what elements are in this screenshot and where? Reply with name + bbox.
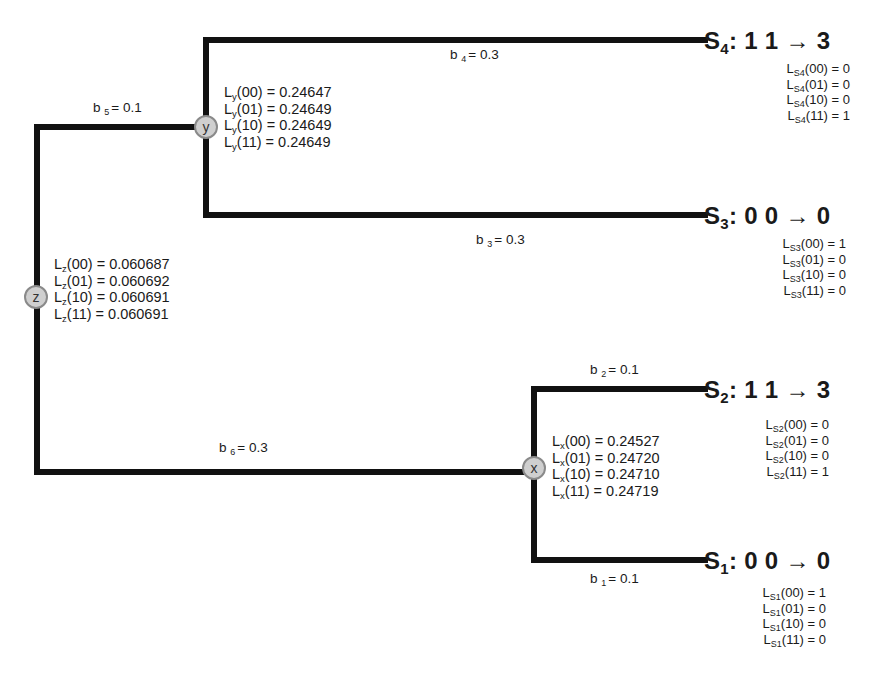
likelihood-row: LS1(01) = 0 bbox=[763, 601, 826, 617]
likelihood-row: LS1(10) = 0 bbox=[763, 616, 826, 632]
likelihood-row: Lz(10) = 0.060691 bbox=[54, 289, 170, 306]
likelihood-row: Lx(01) = 0.24720 bbox=[552, 450, 660, 467]
leaf-s3-likelihoods: LS3(00) = 1 LS3(01) = 0 LS3(10) = 0 LS3(… bbox=[783, 236, 846, 298]
likelihood-row: LS4(10) = 0 bbox=[787, 92, 850, 108]
leaf-s1-likelihoods: LS1(00) = 1 LS1(01) = 0 LS1(10) = 0 LS1(… bbox=[763, 585, 826, 647]
branch-label-b1: b 1= 0.1 bbox=[590, 571, 639, 586]
likelihood-row: LS4(11) = 1 bbox=[787, 108, 850, 124]
likelihood-row: LS1(00) = 1 bbox=[763, 585, 826, 601]
branch-label-b2: b 2= 0.1 bbox=[590, 362, 639, 377]
likelihood-row: Ly(11) = 0.24649 bbox=[224, 134, 332, 151]
leaf-s2-likelihoods: LS2(00) = 0 LS2(01) = 0 LS2(10) = 0 LS2(… bbox=[766, 417, 829, 479]
branch-label-b3: b 3= 0.3 bbox=[476, 232, 525, 247]
leaf-s4-title: S4: 1 1 → 3 bbox=[704, 27, 830, 55]
leaf-s4-likelihoods: LS4(00) = 0 LS4(01) = 0 LS4(10) = 0 LS4(… bbox=[787, 61, 850, 123]
likelihood-row: Ly(00) = 0.24647 bbox=[224, 84, 332, 101]
node-z: z bbox=[24, 285, 48, 309]
likelihood-row: LS4(00) = 0 bbox=[787, 61, 850, 77]
edge-b6 bbox=[37, 297, 534, 472]
node-y-likelihoods: Ly(00) = 0.24647 Ly(01) = 0.24649 Ly(10)… bbox=[224, 84, 332, 150]
node-x-likelihoods: Lx(00) = 0.24527 Lx(01) = 0.24720 Lx(10)… bbox=[552, 433, 660, 499]
branch-label-b5: b 5= 0.1 bbox=[93, 100, 142, 115]
likelihood-row: LS3(10) = 0 bbox=[783, 267, 846, 283]
node-x-label: x bbox=[531, 461, 538, 475]
likelihood-row: LS2(00) = 0 bbox=[766, 417, 829, 433]
likelihood-row: Ly(10) = 0.24649 bbox=[224, 117, 332, 134]
likelihood-row: Lx(11) = 0.24719 bbox=[552, 483, 660, 500]
node-y-label: y bbox=[203, 120, 210, 134]
likelihood-row: Lz(00) = 0.060687 bbox=[54, 256, 170, 273]
node-x: x bbox=[522, 456, 546, 480]
leaf-s1-title: S1: 0 0 → 0 bbox=[704, 547, 830, 575]
likelihood-row: Lx(00) = 0.24527 bbox=[552, 433, 660, 450]
likelihood-row: LS2(01) = 0 bbox=[766, 433, 829, 449]
branch-label-b4: b 4= 0.3 bbox=[450, 47, 499, 62]
likelihood-row: LS2(11) = 1 bbox=[766, 464, 829, 480]
likelihood-row: Ly(01) = 0.24649 bbox=[224, 101, 332, 118]
likelihood-row: LS3(01) = 0 bbox=[783, 252, 846, 268]
likelihood-row: Lz(01) = 0.060692 bbox=[54, 273, 170, 290]
branch-label-b6: b 6= 0.3 bbox=[219, 440, 268, 455]
likelihood-row: LS4(01) = 0 bbox=[787, 77, 850, 93]
likelihood-row: Lz(11) = 0.060691 bbox=[54, 306, 170, 323]
likelihood-row: Lx(10) = 0.24710 bbox=[552, 466, 660, 483]
likelihood-row: LS3(11) = 0 bbox=[783, 283, 846, 299]
node-z-label: z bbox=[33, 290, 40, 304]
likelihood-row: LS2(10) = 0 bbox=[766, 448, 829, 464]
node-z-likelihoods: Lz(00) = 0.060687 Lz(01) = 0.060692 Lz(1… bbox=[54, 256, 170, 322]
leaf-s3-title: S3: 0 0 → 0 bbox=[704, 202, 830, 230]
leaf-s2-title: S2: 1 1 → 3 bbox=[704, 376, 830, 404]
likelihood-row: LS1(11) = 0 bbox=[763, 632, 826, 648]
likelihood-row: LS3(00) = 1 bbox=[783, 236, 846, 252]
node-y: y bbox=[194, 115, 218, 139]
